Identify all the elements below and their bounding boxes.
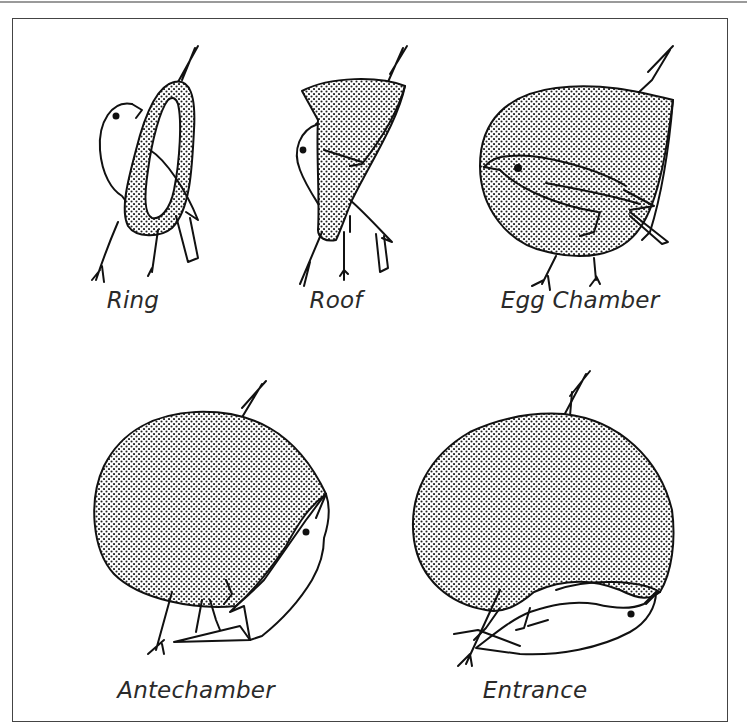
label-antechamber: Antechamber [117, 677, 275, 703]
label-roof: Roof [309, 287, 362, 313]
entrance-illustration [0, 0, 747, 728]
label-egg-chamber: Egg Chamber [501, 287, 660, 313]
label-entrance: Entrance [483, 677, 588, 703]
label-ring: Ring [107, 287, 159, 313]
